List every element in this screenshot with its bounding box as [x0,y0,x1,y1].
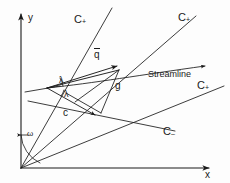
c-plus-right-line [21,86,224,168]
y-axis-label: y [28,13,33,23]
diagram-svg [0,0,230,183]
c-plus-topright-subscript: + [186,16,190,23]
velocity-vector-q [47,66,117,88]
c-plus-left-subscript: + [82,18,86,25]
c-plus-right-letter: C [197,79,205,91]
q-overbar-glyph: q [94,50,100,60]
c-plus-right-subscript: + [205,84,209,91]
mach-angle-upper-label: λ [59,76,64,85]
c-plus-left-letter: C [74,13,82,25]
c-plus-topright-line [21,16,196,168]
c-plus-topright-letter: C [178,11,186,23]
c-plus-left-line [21,8,112,168]
velocity-vector-label: q [94,50,100,60]
group-vector-label: g [115,81,121,91]
c-plus-right-label: C+ [197,80,209,91]
c-minus-label: C– [163,126,175,137]
c-minus-letter: C [163,125,171,137]
omega-angle-label: ω [27,130,33,138]
c-minus-line [28,101,175,131]
streamline-label: Streamline [148,70,191,79]
figure-canvas: y x C+ C+ C+ C– Streamline q g c λ λ ω [0,0,230,183]
sound-speed-vector-c [47,88,95,115]
group-vector-g [47,70,119,88]
x-axis-label: x [205,170,210,180]
c-plus-left-label: C+ [74,14,86,25]
sound-speed-label: c [63,108,68,118]
c-minus-subscript: – [171,130,175,137]
mach-angle-lower-label: λ [64,90,69,99]
c-plus-topright-label: C+ [178,12,190,23]
